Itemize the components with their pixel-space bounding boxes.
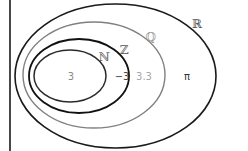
set-integers-label: ℤ [120, 43, 129, 57]
element-three-point-three: 3.3 [136, 71, 152, 82]
element-pi: π [184, 71, 190, 82]
venn-diagram: ℝ ℚ ℤ ℕ 3 −3 3.3 π [0, 0, 248, 151]
set-rationals-label: ℚ [146, 30, 156, 44]
element-negative-three: −3 [115, 71, 130, 82]
set-reals-label: ℝ [192, 17, 203, 31]
set-naturals-label: ℕ [99, 50, 110, 64]
element-three: 3 [68, 71, 74, 82]
